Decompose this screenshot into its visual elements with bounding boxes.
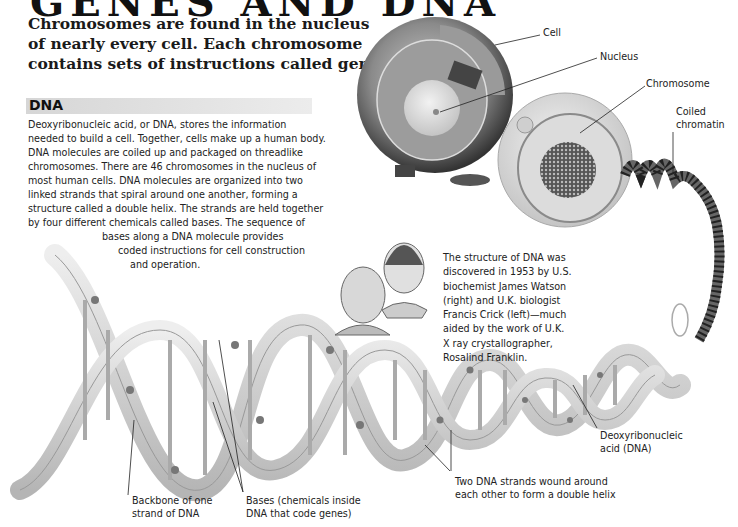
body-line: Deoxyribonucleic acid, or DNA, stores th…	[28, 118, 286, 132]
caption-line: The structure of DNA was	[443, 251, 572, 265]
label-backbone: Backbone of one strand of DNA	[132, 495, 212, 520]
label-chromosome: Chromosome	[646, 78, 710, 91]
label-line: strand of DNA	[132, 508, 212, 521]
body-line: by four different chemicals called bases…	[28, 216, 305, 230]
caption-line: (right) and U.K. biologist	[443, 294, 572, 308]
caption-line: Francis Crick (left)—much	[443, 308, 572, 322]
body-line: bases along a DNA molecule provides	[102, 230, 283, 244]
label-line: acid (DNA)	[600, 443, 683, 456]
label-line: chromatin	[676, 119, 725, 132]
body-line: needed to build a cell. Together, cells …	[28, 132, 326, 146]
label-line: DNA that code genes)	[246, 508, 361, 521]
label-coiled-chromatin: Coiled chromatin	[676, 106, 725, 131]
label-line: Backbone of one	[132, 495, 212, 508]
label-line: Deoxyribonucleic	[600, 430, 683, 443]
body-line: linked strands that spiral around one an…	[28, 188, 298, 202]
label-dna: Deoxyribonucleic acid (DNA)	[600, 430, 683, 455]
label-line: Bases (chemicals inside	[246, 495, 361, 508]
label-line: Two DNA strands wound around	[455, 476, 616, 489]
label-bases: Bases (chemicals inside DNA that code ge…	[246, 495, 361, 520]
body-line: DNA molecules are coiled up and packaged…	[28, 146, 303, 160]
coiled-chromatin	[625, 164, 720, 340]
body-line: most human cells. DNA molecules are orga…	[28, 174, 303, 188]
nucleus-illustration	[498, 93, 632, 227]
body-line: chromosomes. There are 46 chromosomes in…	[28, 160, 316, 174]
label-nucleus: Nucleus	[600, 51, 638, 64]
caption-line: Rosalind Franklin.	[443, 351, 572, 365]
body-line: coded instructions for cell construction	[118, 244, 305, 258]
label-double-helix: Two DNA strands wound around each other …	[455, 476, 616, 501]
caption-line: X ray crystallographer,	[443, 337, 572, 351]
label-line: each other to form a double helix	[455, 489, 616, 502]
label-cell: Cell	[543, 27, 561, 40]
body-line: and operation.	[130, 258, 200, 272]
caption-line: biochemist James Watson	[443, 280, 572, 294]
caption-line: aided by the work of U.K.	[443, 322, 572, 336]
label-line: Coiled	[676, 106, 725, 119]
body-line: structure called a double helix. The str…	[28, 202, 323, 216]
watson-crick-portrait	[335, 243, 427, 335]
caption-line: discovered in 1953 by U.S.	[443, 265, 572, 279]
cell-illustration	[357, 17, 513, 186]
portrait-caption: The structure of DNA was discovered in 1…	[443, 251, 572, 365]
